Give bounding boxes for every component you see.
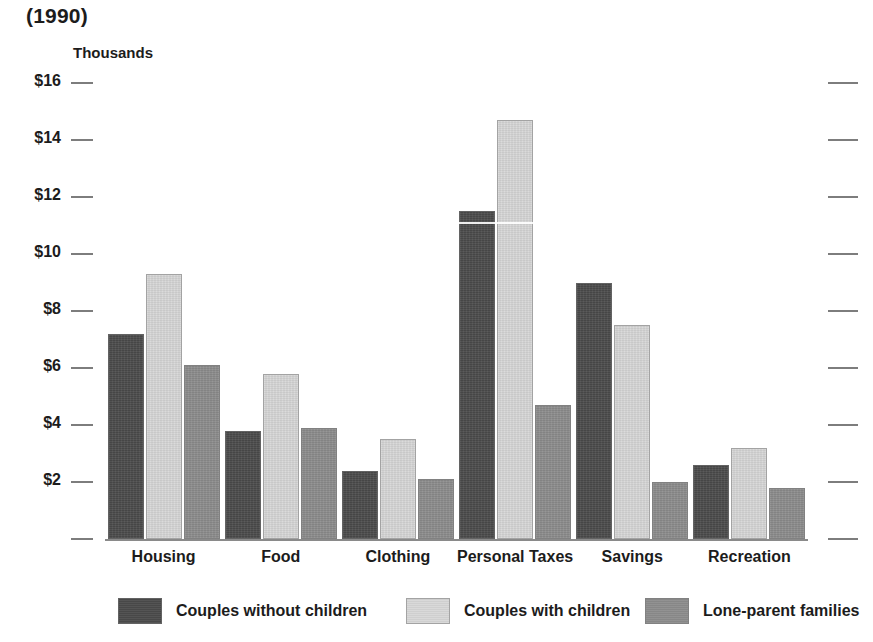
bar [342,471,378,539]
y-axis-tick-mark [71,424,93,426]
y-axis-tick-mark [71,196,93,198]
y-axis-tick-mark-right [828,367,858,369]
y-axis-tick-mark [71,82,93,84]
y-axis-tick-label: $12 [34,186,61,204]
y-axis-tick-mark [71,481,93,483]
legend-label: Lone-parent families [703,602,859,620]
y-axis-tick-label: $6 [43,357,61,375]
chart-container: (1990) Thousands $16$14$12$10$8$6$4$2 Co… [0,0,873,642]
bar [497,120,533,539]
y-axis-tick-mark-right [828,538,858,540]
y-axis-tick-mark-right [828,139,858,141]
y-axis-tick-mark [71,367,93,369]
y-axis-tick-label: $14 [34,129,61,147]
y-axis-tick-mark [71,538,93,540]
y-axis-tick-mark [71,310,93,312]
bar [263,374,299,539]
bar [225,431,261,539]
bar [614,325,650,539]
legend-item: Lone-parent families [645,596,859,626]
bar [769,488,805,539]
y-axis-unit-label: Thousands [73,44,153,61]
bar [731,448,767,539]
bar [301,428,337,539]
legend-item: Couples with children [406,596,630,626]
bar [535,405,571,539]
y-axis-tick-label: $16 [34,72,61,90]
bar [459,211,495,539]
bar [380,439,416,539]
y-axis-tick-mark-right [828,82,858,84]
y-axis-tick-label: $10 [34,243,61,261]
bar [576,283,612,540]
y-axis-tick-mark-right [828,424,858,426]
legend-swatch [406,598,450,624]
y-axis-tick-mark-right [828,253,858,255]
bar [184,365,220,539]
y-axis-tick-mark [71,253,93,255]
y-axis-tick-label: $2 [43,471,61,489]
y-axis-tick-label: $8 [43,300,61,318]
y-axis-tick-mark-right [828,196,858,198]
page-title: (1990) [26,4,88,28]
bar [652,482,688,539]
y-axis-tick-mark [71,139,93,141]
y-axis-tick-label: $4 [43,414,61,432]
x-axis-category-label: Recreation [659,548,839,566]
y-axis-tick-mark-right [828,310,858,312]
bar [418,479,454,539]
legend-swatch [645,598,689,624]
chart-legend: Couples without childrenCouples with chi… [0,596,873,630]
scan-artifact-line [459,222,533,224]
bar [693,465,729,539]
bar [108,334,144,539]
bar [146,274,182,539]
y-axis-tick-mark-right [828,481,858,483]
legend-swatch [118,598,162,624]
legend-item: Couples without children [118,596,367,626]
legend-label: Couples with children [464,602,630,620]
legend-label: Couples without children [176,602,367,620]
